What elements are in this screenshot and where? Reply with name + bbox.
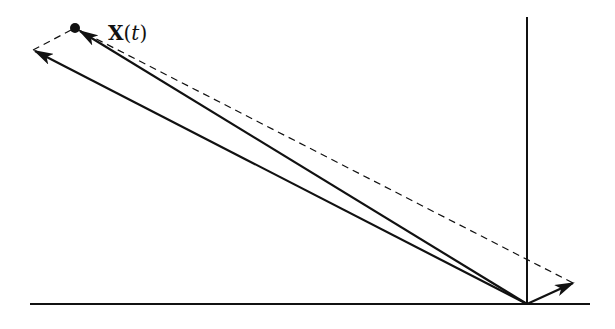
point-x-label: X(t): [108, 21, 147, 45]
label-close-paren: ): [139, 21, 147, 45]
vector-to-x-arrow: [80, 31, 527, 304]
diagram-canvas: [0, 0, 615, 329]
vector-short-arrow: [527, 283, 573, 304]
point-x-dot: [70, 23, 80, 33]
dashed-edge-long: [75, 28, 573, 283]
label-symbol: X: [108, 21, 124, 45]
dashed-edge-top: [33, 28, 75, 50]
vector-long-arrow: [35, 51, 527, 304]
